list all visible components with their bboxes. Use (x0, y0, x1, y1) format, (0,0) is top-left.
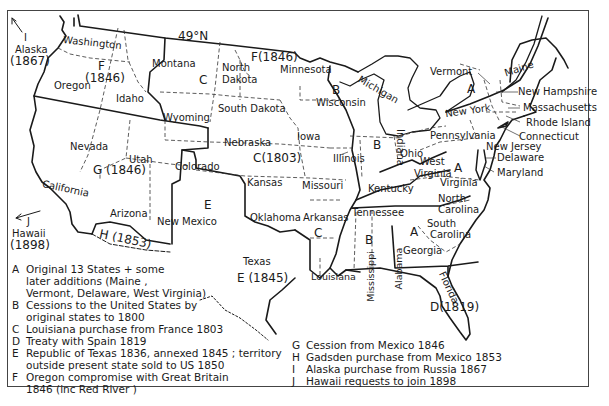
state-label-south-carolina-1: South (427, 218, 456, 229)
state-label-massachusetts: Massachusetts (523, 102, 597, 113)
parallel-49n-label: 49°N (178, 31, 208, 42)
legend-left: AOriginal 13 States + some later additio… (12, 263, 282, 395)
state-label-delaware: Delaware (497, 152, 544, 163)
region-marker-c-arkansas: C (314, 228, 322, 239)
legend-item-g: GCession from Mexico 1846 (292, 339, 502, 351)
legend-item-e: ERepublic of Texas 1836, annexed 1845 ; … (12, 347, 282, 371)
state-label-nebraska: Nebraska (224, 137, 271, 148)
region-marker-f-minnesota: F(1846) (251, 52, 298, 63)
state-label-oklahoma: Oklahoma (250, 212, 301, 223)
legend-item-d: DTreaty with Spain 1819 (12, 335, 282, 347)
state-label-north-dakota-2: Dakota (222, 74, 257, 85)
legend-item-j: JHawaii requests to join 1898 (292, 375, 502, 387)
state-label-kentucky: Kentucky (368, 183, 414, 194)
state-label-vermont: Vermont (430, 66, 472, 77)
state-label-south-carolina-2: Carolina (430, 229, 471, 240)
state-label-north-carolina-2: Carolina (438, 204, 479, 215)
region-marker-b-indiana: B (373, 140, 381, 151)
state-label-new-jersey: New Jersey (486, 141, 541, 152)
region-marker-a-georgia: A (410, 227, 418, 238)
legend-right: GCession from Mexico 1846 HGadsden purch… (292, 339, 502, 387)
hawaii-key-label: J (27, 216, 30, 227)
legend-item-c: CLouisiana purchase from France 1803 (12, 323, 282, 335)
region-marker-f-oregon-year: (1846) (85, 73, 125, 84)
state-label-new-mexico-2: Mexico (182, 216, 217, 227)
state-label-new-mexico-1: New (157, 216, 179, 227)
state-label-rhode-island: Rhode Island (526, 117, 591, 128)
state-label-north-carolina-1: North (438, 193, 466, 204)
alaska-arrow-icon (12, 18, 22, 32)
region-marker-d-1819: D(1819) (430, 302, 479, 313)
state-label-illinois: Illinois (333, 153, 365, 164)
region-marker-c-1803: C(1803) (253, 153, 301, 164)
alaska-key-label: I (24, 32, 27, 43)
region-marker-a-virginia: A (454, 163, 462, 174)
state-label-louisiana: Louisiana (311, 271, 356, 282)
state-label-wisconsin: Wisconsin (316, 97, 366, 108)
region-marker-g-1846: G (1846) (93, 165, 146, 176)
legend-item-f: FOregon compromise with Great Britain 18… (12, 371, 282, 395)
region-marker-c-montana: C (199, 75, 207, 86)
state-label-idaho: Idaho (116, 93, 144, 104)
state-label-new-hampshire: New Hampshire (518, 86, 597, 97)
state-label-maryland: Maryland (497, 167, 543, 178)
state-label-colorado: Colorado (175, 161, 220, 172)
state-label-arkansas: Arkansas (303, 212, 349, 223)
state-label-west-virginia-2: Virginia (414, 168, 452, 179)
state-label-montana: Montana (152, 58, 196, 69)
state-label-south-dakota: South Dakota (218, 103, 286, 114)
state-label-arizona: Arizona (110, 208, 148, 219)
legend-item-b: BCessions to the United States by origin… (12, 299, 282, 323)
state-label-missouri: Missouri (302, 180, 343, 191)
state-label-nevada: Nevada (70, 141, 108, 152)
state-label-north-dakota-1: North (222, 62, 250, 73)
legend-item-a: AOriginal 13 States + some later additio… (12, 263, 282, 299)
legend-item-h: HGadsden purchase from Mexico 1853 (292, 351, 502, 363)
state-label-tennessee: Tennessee (352, 207, 404, 218)
region-marker-e-new-mexico: E (204, 200, 212, 211)
state-label-wyoming: Wyoming (163, 112, 210, 123)
region-marker-a-new-york: A (467, 84, 475, 95)
state-label-kansas: Kansas (247, 177, 282, 188)
state-label-pennsylvania: Pennsylvania (430, 130, 496, 141)
state-label-iowa: Iowa (297, 131, 320, 142)
alaska-year-label: (1867) (10, 56, 50, 67)
region-marker-b-alabama: B (365, 235, 373, 246)
region-marker-b-wisconsin: B (332, 85, 340, 96)
state-label-georgia: Georgia (403, 245, 442, 256)
state-label-mississippi: Mississippi (365, 251, 376, 302)
hawaii-year-label: (1898) (10, 240, 50, 251)
state-label-west-virginia-1: West (420, 156, 445, 167)
legend-item-i: IAlaska purchase from Russia 1867 (292, 363, 502, 375)
state-label-minnesota: Minnesota (280, 64, 332, 75)
